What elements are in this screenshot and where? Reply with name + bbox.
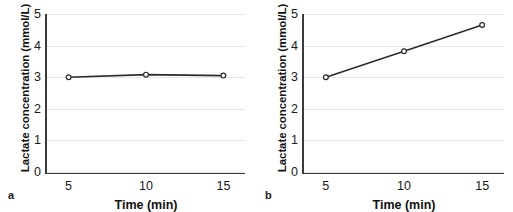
y-tick-a-1: 1 — [34, 133, 41, 147]
y-tick-a-4: 4 — [34, 39, 41, 53]
x-tick-a-0: 5 — [65, 179, 72, 193]
y-tick-a-0: 0 — [34, 165, 41, 179]
y-tick-b-5: 5 — [291, 7, 298, 21]
data-point-b-2 — [480, 23, 485, 28]
panel-b: Lactate concentration (mmol/L) 0 1 2 3 4… — [257, 0, 513, 212]
data-series-b — [304, 14, 504, 172]
y-tick-a-5: 5 — [34, 7, 41, 21]
data-point-a-1 — [144, 72, 149, 77]
data-point-b-1 — [402, 49, 407, 54]
y-tick-b-2: 2 — [291, 102, 298, 116]
y-tick-b-4: 4 — [291, 39, 298, 53]
y-tick-b-1: 1 — [291, 133, 298, 147]
y-tick-a-3: 3 — [34, 70, 41, 84]
plot-area-b: 0 1 2 3 4 5 5 10 15 Time (min) — [302, 14, 504, 174]
x-tick-b-2: 15 — [475, 179, 489, 193]
panel-tag-a: a — [8, 189, 14, 201]
x-tick-a-1: 10 — [139, 179, 153, 193]
x-tick-b-0: 5 — [322, 179, 329, 193]
y-tick-b-0: 0 — [291, 165, 298, 179]
x-axis-label-b: Time (min) — [373, 198, 436, 212]
gridline-b-0 — [304, 172, 504, 173]
figure-container: Lactate concentration (mmol/L) 0 1 2 3 4… — [0, 0, 513, 212]
panel-a: Lactate concentration (mmol/L) 0 1 2 3 4… — [0, 0, 256, 212]
x-axis-label-a: Time (min) — [115, 198, 178, 212]
x-tick-b-1: 10 — [397, 179, 411, 193]
panel-tag-b: b — [265, 189, 272, 201]
y-axis-label-a: Lactate concentration (mmol/L) — [16, 2, 34, 174]
plot-area-a: 0 1 2 3 4 5 5 10 15 Time (min) — [45, 14, 245, 174]
x-tick-a-2: 15 — [216, 179, 230, 193]
y-axis-label-b: Lactate concentration (mmol/L) — [273, 2, 291, 174]
y-tick-b-3: 3 — [291, 70, 298, 84]
data-series-a — [47, 14, 245, 172]
data-point-a-2 — [221, 73, 226, 78]
data-point-a-0 — [66, 75, 71, 80]
y-tick-a-2: 2 — [34, 102, 41, 116]
gridline-a-0 — [47, 172, 245, 173]
data-point-b-0 — [323, 75, 328, 80]
